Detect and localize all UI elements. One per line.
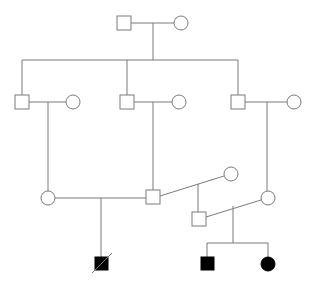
female-symbol-II-6 — [287, 95, 301, 109]
female-symbol-I-2 — [174, 16, 188, 30]
pedigree-diagram — [0, 0, 314, 281]
male-symbol-II-1 — [15, 95, 29, 109]
female-symbol-III-5 — [261, 191, 275, 205]
affected-male-symbol-IV-2 — [201, 257, 214, 270]
relationship-lines — [22, 23, 287, 257]
male-symbol-III-4 — [192, 212, 206, 226]
individuals — [15, 16, 301, 273]
female-symbol-III-3 — [224, 167, 238, 181]
female-symbol-II-2 — [66, 95, 80, 109]
male-symbol-I-1 — [117, 16, 131, 30]
male-symbol-III-2 — [146, 190, 160, 204]
female-symbol-III-1 — [41, 191, 55, 205]
mating-line-III-2-3 — [160, 176, 224, 196]
affected-female-symbol-IV-3 — [261, 257, 275, 271]
male-symbol-II-5 — [231, 95, 245, 109]
male-symbol-II-3 — [120, 95, 134, 109]
female-symbol-II-4 — [172, 95, 186, 109]
